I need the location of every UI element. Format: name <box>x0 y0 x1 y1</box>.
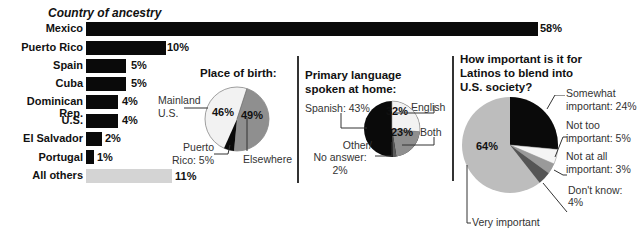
blend-very-label: Very important <box>472 216 540 228</box>
birth-title: Place of birth: <box>200 66 277 80</box>
bar-spain <box>86 59 126 73</box>
bar-el-salvador <box>86 132 102 146</box>
bar-label: El Salvador <box>3 132 83 144</box>
bar-label: Mexico <box>3 22 83 34</box>
bar-value: 2% <box>105 132 121 144</box>
divider <box>452 56 454 181</box>
bar-mexico <box>86 22 538 36</box>
bar-label: All others <box>3 169 83 181</box>
blend-dont-know-label: Don't know: 4% <box>568 184 638 208</box>
bar-value: 1% <box>97 151 113 163</box>
language-leader-lines <box>330 100 470 170</box>
bar-value: 4% <box>122 114 138 126</box>
bar-label: Puerto Rico <box>3 41 83 53</box>
bar-value: 10% <box>167 41 189 53</box>
bar-us <box>86 114 118 128</box>
bar-label: U.S. <box>3 114 83 126</box>
blend-somewhat-label: Somewhat important: 24% <box>566 87 637 112</box>
bar-label: Cuba <box>3 77 83 89</box>
bar-value: 5% <box>131 77 147 89</box>
divider <box>297 56 299 183</box>
bar-cuba <box>86 77 126 91</box>
bar-value: 4% <box>122 95 138 107</box>
ancestry-title: Country of ancestry <box>48 6 161 20</box>
blend-title: How important is it for Latinos to blend… <box>460 52 582 94</box>
bar-value: 58% <box>540 22 562 34</box>
blend-not-at-all-label: Not at all important: 3% <box>566 150 631 175</box>
blend-not-too-label: Not too important: 5% <box>566 119 631 144</box>
language-title: Primary language spoken at home: <box>305 68 402 96</box>
bar-dominican-rep <box>86 95 118 109</box>
bar-portugal <box>86 150 94 164</box>
bar-value: 5% <box>131 59 147 71</box>
birth-leader-lines <box>178 95 278 175</box>
bar-label: Portugal <box>3 151 83 163</box>
bar-puerto-rico <box>86 41 166 55</box>
bar-label: Spain <box>3 59 83 71</box>
bar-all-others <box>86 169 172 183</box>
